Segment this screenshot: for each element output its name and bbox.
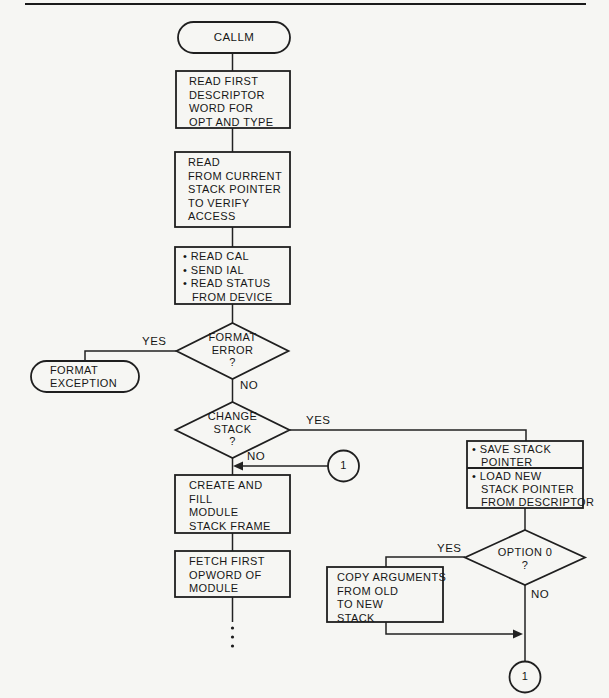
- flowchart-page: CALLM READ FIRST DESCRIPTOR WORD FOR OPT…: [0, 0, 609, 698]
- text-line: READ FIRST: [189, 75, 273, 89]
- text-line: OPTION 0: [465, 546, 585, 559]
- text-line: STACK: [337, 612, 446, 626]
- decision-format-error-text: FORMAT ERROR ?: [176, 331, 289, 369]
- text-line: • SAVE STACK: [472, 443, 551, 456]
- process-read-cal-text: • READ CAL • SEND IAL • READ STATUS FROM…: [183, 250, 273, 304]
- process-load-stack-lower-text: • LOAD NEW STACK POINTER FROM DESCRIPTOR: [472, 470, 594, 509]
- edge-label-no-option: NO: [531, 588, 549, 600]
- edge-label-yes-format: YES: [142, 335, 167, 347]
- text-line: MODULE: [189, 582, 265, 596]
- text-line: OPWORD OF: [189, 569, 265, 583]
- text-line: CREATE AND: [189, 479, 271, 493]
- process-read-current-text: READ FROM CURRENT STACK POINTER TO VERIF…: [188, 156, 282, 224]
- text-line: POINTER: [472, 456, 551, 469]
- text-line: WORD FOR: [189, 102, 273, 116]
- process-fetch-first-text: FETCH FIRST OPWORD OF MODULE: [189, 555, 265, 596]
- text-line: MODULE: [189, 506, 271, 520]
- edge-change-stack-yes: [290, 430, 527, 441]
- flowchart-shapes-layer: [0, 0, 609, 698]
- text-line: ?: [465, 559, 585, 572]
- connector-bottom-label: 1: [510, 662, 541, 693]
- edge-label-yes-change: YES: [306, 414, 331, 426]
- decision-change-stack-text: CHANGE STACK ?: [175, 410, 290, 448]
- text-line: STACK POINTER: [188, 183, 282, 197]
- text-line: • LOAD NEW: [472, 470, 594, 483]
- process-save-stack-upper-text: • SAVE STACK POINTER: [472, 443, 551, 469]
- decision-option0-text: OPTION 0 ?: [465, 546, 585, 572]
- text-line: FORMAT: [50, 364, 117, 377]
- arrowhead-left-icon: [233, 462, 243, 471]
- text-line: • SEND IAL: [183, 264, 273, 278]
- text-line: OPT AND TYPE: [189, 116, 273, 130]
- text-line: FROM DEVICE: [183, 291, 273, 305]
- text-line: FROM OLD: [337, 585, 446, 599]
- text-line: TO NEW: [337, 598, 446, 612]
- edge-label-yes-option: YES: [437, 542, 462, 554]
- text-line: DESCRIPTOR: [189, 89, 273, 103]
- text-line: • READ CAL: [183, 250, 273, 264]
- vertical-ellipsis-icon: [231, 626, 234, 647]
- text-line: STACK FRAME: [189, 520, 271, 534]
- edge-label-no-format: NO: [240, 379, 258, 391]
- text-line: ACCESS: [188, 210, 282, 224]
- text-line: TO VERIFY: [188, 197, 282, 211]
- text-line: FILL: [189, 493, 271, 507]
- edge-label-no-change: NO: [247, 450, 265, 462]
- text-line: FETCH FIRST: [189, 555, 265, 569]
- text-line: • READ STATUS: [183, 277, 273, 291]
- arrowhead-right-icon: [513, 630, 523, 639]
- text-line: STACK POINTER: [472, 483, 594, 496]
- text-line: CHANGE: [175, 410, 290, 423]
- edges: [85, 53, 526, 662]
- text-line: EXCEPTION: [50, 377, 117, 390]
- edge-option0-yes: [386, 557, 465, 567]
- text-line: FROM DESCRIPTOR: [472, 496, 594, 509]
- text-line: FORMAT: [176, 331, 289, 344]
- process-create-fill-text: CREATE AND FILL MODULE STACK FRAME: [189, 479, 271, 533]
- text-line: READ: [188, 156, 282, 170]
- edge-format-error-yes: [85, 351, 177, 361]
- terminator-format-exception-text: FORMAT EXCEPTION: [50, 364, 117, 390]
- text-line: ?: [176, 356, 289, 369]
- process-read-first-text: READ FIRST DESCRIPTOR WORD FOR OPT AND T…: [189, 75, 273, 129]
- text-line: COPY ARGUMENTS: [337, 571, 446, 585]
- process-copy-args-text: COPY ARGUMENTS FROM OLD TO NEW STACK: [337, 571, 446, 625]
- text-line: ?: [175, 435, 290, 448]
- connector-mid-label: 1: [328, 451, 359, 482]
- text-line: ERROR: [176, 344, 289, 357]
- text-line: STACK: [175, 423, 290, 436]
- terminator-callm-label: CALLM: [178, 22, 290, 53]
- text-line: FROM CURRENT: [188, 170, 282, 184]
